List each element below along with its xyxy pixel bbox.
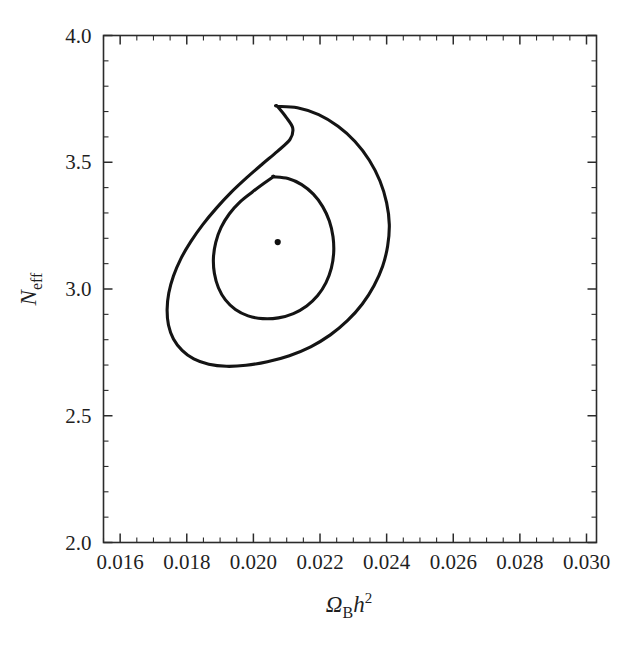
figure-background xyxy=(0,0,635,645)
x-tick-label: 0.020 xyxy=(230,550,277,574)
x-tick-label: 0.024 xyxy=(363,550,411,574)
y-axis-n-subscript: eff xyxy=(28,272,45,290)
y-tick-label: 2.0 xyxy=(65,531,91,555)
x-axis-omega-subscript: B xyxy=(342,604,353,621)
x-axis-omega-symbol: Ω xyxy=(326,592,343,617)
x-axis-h-exponent: 2 xyxy=(365,590,373,606)
x-tick-label: 0.030 xyxy=(563,550,610,574)
y-tick-label: 3.5 xyxy=(65,150,91,174)
y-axis-n-symbol: N xyxy=(16,288,41,306)
best-fit-point-marker xyxy=(275,239,281,245)
x-tick-label: 0.016 xyxy=(97,550,144,574)
x-tick-label: 0.028 xyxy=(496,550,543,574)
x-tick-label: 0.018 xyxy=(163,550,210,574)
y-tick-label: 3.0 xyxy=(65,277,91,301)
x-axis-h-symbol: h xyxy=(353,592,365,617)
x-tick-label: 0.022 xyxy=(296,550,343,574)
y-tick-label: 2.5 xyxy=(65,404,91,428)
contour-plot-figure: 0.0160.0180.0200.0220.0240.0260.0280.030… xyxy=(0,0,635,645)
plot-canvas: 0.0160.0180.0200.0220.0240.0260.0280.030… xyxy=(0,0,635,645)
x-tick-label: 0.026 xyxy=(430,550,477,574)
y-tick-label: 4.0 xyxy=(65,24,91,48)
